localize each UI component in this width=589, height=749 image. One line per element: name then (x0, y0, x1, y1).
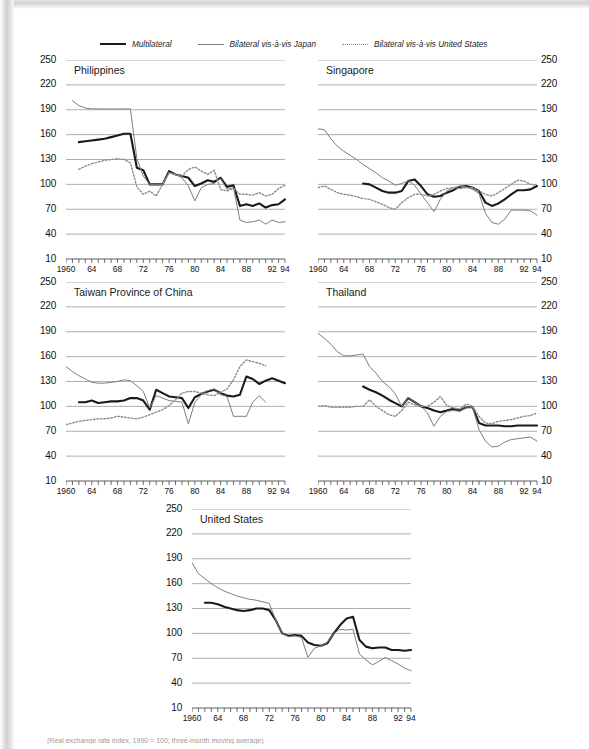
y-tick-label-thailand-10: 10 (541, 475, 571, 486)
x-tick-label-philippines-1964: 64 (85, 264, 99, 274)
x-tick-label-philippines-1972: 72 (136, 264, 150, 274)
y-tick-label-taiwan-250: 250 (26, 276, 56, 287)
y-tick-label-thailand-40: 40 (541, 450, 571, 461)
y-tick-label-singapore-70: 70 (541, 203, 571, 214)
y-tick-label-singapore-100: 100 (541, 178, 571, 189)
x-tick-label-thailand-1994: 94 (530, 486, 544, 496)
y-tick-label-singapore-130: 130 (541, 153, 571, 164)
x-tick-label-philippines-1960: 1960 (53, 264, 79, 274)
x-tick-label-philippines-1988: 88 (239, 264, 253, 274)
x-tick-label-taiwan-1960: 1960 (53, 486, 79, 496)
x-tick-label-singapore-1960: 1960 (305, 264, 331, 274)
y-tick-label-taiwan-130: 130 (26, 375, 56, 386)
y-tick-label-united-states-250: 250 (152, 503, 182, 514)
x-tick-label-thailand-1960: 1960 (305, 486, 331, 496)
y-tick-label-thailand-220: 220 (541, 300, 571, 311)
x-tick-label-united-states-1992: 92 (391, 713, 405, 723)
y-tick-label-philippines-130: 130 (26, 153, 56, 164)
x-tick-label-singapore-1968: 68 (363, 264, 377, 274)
y-tick-label-philippines-190: 190 (26, 103, 56, 114)
x-tick-label-united-states-1984: 84 (340, 713, 354, 723)
x-tick-label-taiwan-1994: 94 (278, 486, 292, 496)
x-tick-label-singapore-1972: 72 (388, 264, 402, 274)
chart-panel-singapore (318, 60, 539, 273)
x-tick-label-taiwan-1988: 88 (239, 486, 253, 496)
x-tick-label-singapore-1984: 84 (466, 264, 480, 274)
page-edge-left (0, 0, 14, 749)
x-tick-label-united-states-1994: 94 (404, 713, 418, 723)
x-tick-label-philippines-1994: 94 (278, 264, 292, 274)
x-tick-label-thailand-1988: 88 (491, 486, 505, 496)
series-line-bilateral-vis-vis-united-states (66, 360, 266, 425)
x-tick-label-united-states-1964: 64 (211, 713, 225, 723)
x-tick-label-united-states-1968: 68 (237, 713, 251, 723)
series-line-multilateral (205, 603, 411, 651)
legend-item-bilateral-japan: Bilateral vis-à-vis Japan (198, 40, 316, 49)
x-tick-label-taiwan-1984: 84 (214, 486, 228, 496)
chart-panel-taiwan (66, 282, 287, 495)
line-dotted-icon (342, 44, 368, 45)
y-tick-label-united-states-10: 10 (152, 702, 182, 713)
chart-legend: Multilateral Bilateral vis-à-vis Japan B… (100, 37, 520, 51)
x-tick-label-taiwan-1980: 80 (188, 486, 202, 496)
y-tick-label-taiwan-70: 70 (26, 425, 56, 436)
y-tick-label-thailand-100: 100 (541, 400, 571, 411)
x-tick-label-taiwan-1976: 76 (162, 486, 176, 496)
legend-label-bilateral-us: Bilateral vis-à-vis United States (374, 40, 487, 49)
plot-area-singapore (318, 60, 539, 273)
x-tick-label-taiwan-1972: 72 (136, 486, 150, 496)
x-tick-label-singapore-1994: 94 (530, 264, 544, 274)
chart-panel-thailand (318, 282, 539, 495)
x-tick-label-thailand-1976: 76 (414, 486, 428, 496)
x-tick-label-thailand-1984: 84 (466, 486, 480, 496)
panel-title-philippines: Philippines (74, 64, 125, 76)
series-line-bilateral-vis-vis-japan (192, 563, 411, 671)
y-tick-label-philippines-250: 250 (26, 54, 56, 65)
y-tick-label-taiwan-190: 190 (26, 325, 56, 336)
x-tick-label-thailand-1992: 92 (517, 486, 531, 496)
y-tick-label-united-states-70: 70 (152, 652, 182, 663)
x-tick-label-philippines-1992: 92 (265, 264, 279, 274)
legend-item-multilateral: Multilateral (100, 40, 172, 49)
x-tick-label-thailand-1980: 80 (440, 486, 454, 496)
x-tick-label-united-states-1972: 72 (262, 713, 276, 723)
y-tick-label-united-states-160: 160 (152, 577, 182, 588)
panel-title-united-states: United States (200, 513, 263, 525)
y-tick-label-singapore-160: 160 (541, 128, 571, 139)
y-tick-label-united-states-220: 220 (152, 527, 182, 538)
y-tick-label-united-states-130: 130 (152, 602, 182, 613)
y-tick-label-thailand-160: 160 (541, 350, 571, 361)
legend-label-bilateral-japan: Bilateral vis-à-vis Japan (230, 40, 316, 49)
y-tick-label-philippines-70: 70 (26, 203, 56, 214)
y-tick-label-united-states-100: 100 (152, 627, 182, 638)
plot-area-united-states (192, 509, 413, 722)
y-tick-label-taiwan-100: 100 (26, 400, 56, 411)
chart-panel-philippines (66, 60, 287, 273)
panel-title-thailand: Thailand (326, 286, 366, 298)
panel-title-singapore: Singapore (326, 64, 374, 76)
y-tick-label-singapore-190: 190 (541, 103, 571, 114)
x-tick-label-philippines-1984: 84 (214, 264, 228, 274)
series-line-multilateral (363, 179, 537, 206)
y-tick-label-singapore-10: 10 (541, 253, 571, 264)
y-tick-label-singapore-40: 40 (541, 228, 571, 239)
x-tick-label-thailand-1964: 64 (337, 486, 351, 496)
x-tick-label-united-states-1988: 88 (365, 713, 379, 723)
x-tick-label-united-states-1976: 76 (288, 713, 302, 723)
x-tick-label-singapore-1988: 88 (491, 264, 505, 274)
y-tick-label-united-states-40: 40 (152, 677, 182, 688)
series-line-multilateral (79, 134, 285, 208)
x-tick-label-taiwan-1992: 92 (265, 486, 279, 496)
y-tick-label-singapore-250: 250 (541, 54, 571, 65)
legend-label-multilateral: Multilateral (132, 40, 172, 49)
x-tick-label-united-states-1960: 1960 (179, 713, 205, 723)
y-tick-label-taiwan-160: 160 (26, 350, 56, 361)
panel-title-taiwan: Taiwan Province of China (74, 286, 192, 298)
x-tick-label-philippines-1968: 68 (111, 264, 125, 274)
plot-area-philippines (66, 60, 287, 273)
legend-item-bilateral-us: Bilateral vis-à-vis United States (342, 40, 487, 49)
y-tick-label-singapore-220: 220 (541, 78, 571, 89)
y-tick-label-philippines-100: 100 (26, 178, 56, 189)
x-tick-label-singapore-1964: 64 (337, 264, 351, 274)
x-tick-label-singapore-1992: 92 (517, 264, 531, 274)
